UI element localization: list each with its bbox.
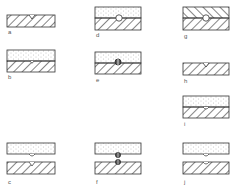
label-c: c [8, 179, 11, 185]
panel-j: j [183, 143, 229, 185]
label-j: j [183, 179, 185, 185]
label-a: a [8, 29, 12, 35]
label-d: d [96, 32, 99, 38]
label-f: f [96, 179, 98, 185]
panel-f: f [95, 143, 141, 185]
diagram-canvas: a b c d e f [0, 0, 234, 192]
label-i: i [184, 121, 185, 127]
panel-a: a [7, 15, 55, 35]
panel-g: g [183, 7, 229, 39]
panel-d: d [95, 7, 141, 38]
label-e: e [96, 77, 100, 83]
label-g: g [184, 33, 187, 39]
panel-b: b [7, 50, 55, 80]
panel-h: h [183, 63, 229, 84]
panel-i: i [183, 96, 229, 127]
label-h: h [184, 78, 187, 84]
panel-c: c [7, 143, 55, 185]
panel-e: e [95, 52, 141, 83]
label-b: b [8, 74, 12, 80]
